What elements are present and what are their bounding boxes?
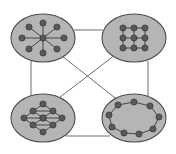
graph-node bbox=[142, 45, 148, 51]
graph-node bbox=[131, 99, 137, 105]
graph-node bbox=[131, 45, 137, 51]
graph-node bbox=[136, 131, 142, 137]
graph-node bbox=[121, 130, 127, 136]
graph-node bbox=[50, 108, 56, 114]
graph-node bbox=[115, 102, 121, 108]
graph-node bbox=[40, 20, 46, 26]
graph-node bbox=[142, 35, 148, 41]
graph-node bbox=[54, 46, 60, 52]
graph-node bbox=[120, 35, 126, 41]
graph-node bbox=[120, 45, 126, 51]
graph-node bbox=[26, 24, 32, 30]
graph-node bbox=[30, 108, 36, 114]
network-graph bbox=[0, 0, 176, 154]
graph-node bbox=[19, 35, 25, 41]
diagram-canvas bbox=[0, 0, 176, 154]
graph-node bbox=[40, 35, 46, 41]
graph-node bbox=[26, 46, 32, 52]
inter-cluster-edge bbox=[55, 55, 115, 101]
graph-node bbox=[109, 124, 115, 130]
graph-node bbox=[54, 24, 60, 30]
graph-node bbox=[131, 35, 137, 41]
graph-node bbox=[50, 122, 56, 128]
graph-node bbox=[142, 25, 148, 31]
graph-node bbox=[120, 25, 126, 31]
graph-node bbox=[156, 114, 162, 120]
graph-node bbox=[21, 115, 27, 121]
graph-node bbox=[61, 35, 67, 41]
graph-node bbox=[131, 25, 137, 31]
graph-node bbox=[40, 101, 46, 107]
graph-node bbox=[106, 112, 112, 118]
inter-cluster-edge bbox=[62, 56, 119, 101]
graph-node bbox=[30, 122, 36, 128]
graph-node bbox=[40, 129, 46, 135]
graph-node bbox=[147, 103, 153, 109]
graph-node bbox=[59, 115, 65, 121]
graph-node bbox=[150, 126, 156, 132]
graph-node bbox=[40, 115, 46, 121]
graph-node bbox=[40, 50, 46, 56]
